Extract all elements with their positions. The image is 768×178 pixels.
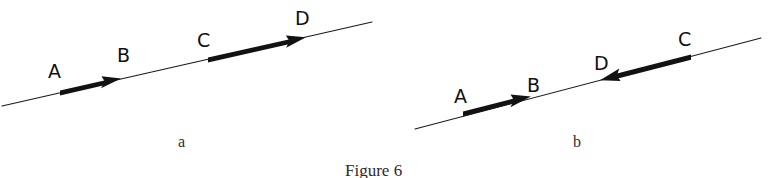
panel-a-label-B: B xyxy=(117,44,130,66)
panel-b-vector-CD xyxy=(600,55,691,81)
figure-svg-canvas: A B C D a A B D C b Figur xyxy=(0,0,768,178)
panel-b-label-C: C xyxy=(678,28,691,50)
panel-a-label-A: A xyxy=(48,60,61,82)
figure-6-container: A B C D a A B D C b Figur xyxy=(0,0,768,178)
panel-b-label-A: A xyxy=(454,85,467,107)
panel-b-vector-CD-shaft xyxy=(615,55,691,80)
panel-b-vector-AB xyxy=(463,95,531,117)
panel-a-label-C: C xyxy=(197,29,210,51)
panel-a-vector-CD xyxy=(208,36,306,63)
panel-b-vector-AB-shaft xyxy=(463,98,516,117)
panel-b-sublabel: b xyxy=(573,133,581,150)
figure-caption: Figure 6 xyxy=(345,161,402,178)
panel-b-label-B: B xyxy=(527,74,540,96)
panel-a: A B C D a xyxy=(2,7,372,150)
panel-b: A B D C b xyxy=(415,28,761,150)
panel-a-label-D: D xyxy=(295,7,310,29)
panel-a-vector-AB-shaft xyxy=(60,80,107,96)
panel-a-vector-CD-shaft xyxy=(208,39,291,63)
panel-a-sublabel: a xyxy=(178,133,185,150)
panel-a-vector-AB xyxy=(60,76,121,95)
panel-b-label-D: D xyxy=(594,52,609,74)
